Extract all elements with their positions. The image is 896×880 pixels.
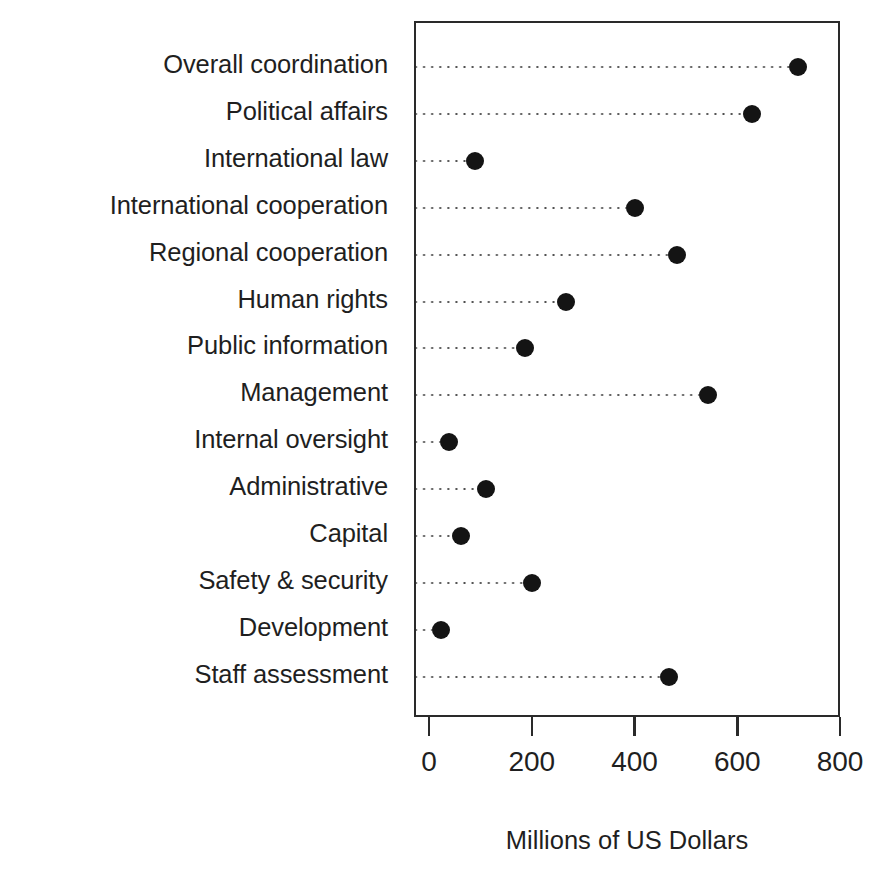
leader-line [416, 113, 743, 115]
x-axis-tick-label: 0 [421, 748, 437, 776]
leader-line [416, 394, 699, 396]
data-point-marker [668, 246, 686, 264]
data-point-marker [452, 527, 470, 545]
data-point-marker [660, 668, 678, 686]
dot-plot-figure: Overall coordinationPolitical affairsInt… [0, 0, 896, 880]
category-label: Human rights [0, 287, 388, 313]
data-point-marker [523, 574, 541, 592]
x-axis-tick [633, 717, 636, 736]
leader-line [416, 254, 668, 256]
category-label: Management [0, 380, 388, 406]
leader-line [416, 676, 660, 678]
plot-area [416, 23, 838, 715]
data-point-marker [789, 58, 807, 76]
x-axis-tick [839, 717, 842, 736]
leader-line [416, 66, 789, 68]
x-axis-tick-labels: 0200400600800 [414, 748, 840, 788]
category-label: International cooperation [0, 193, 388, 219]
leader-line [416, 347, 516, 349]
x-axis-tick-label: 800 [817, 748, 864, 776]
category-axis-labels: Overall coordinationPolitical affairsInt… [0, 0, 388, 717]
category-label: International law [0, 146, 388, 172]
plot-panel [414, 21, 840, 717]
leader-line [416, 441, 440, 443]
x-axis-tick-label: 600 [714, 748, 761, 776]
category-label: Capital [0, 521, 388, 547]
data-point-marker [557, 293, 575, 311]
x-axis-tick [531, 717, 534, 736]
x-axis-tick-label: 200 [508, 748, 555, 776]
x-axis-title: Millions of US Dollars [414, 828, 840, 854]
category-label: Internal oversight [0, 427, 388, 453]
data-point-marker [432, 621, 450, 639]
category-label: Regional cooperation [0, 240, 388, 266]
data-point-marker [440, 433, 458, 451]
data-point-marker [699, 386, 717, 404]
leader-line [416, 535, 452, 537]
leader-line [416, 488, 477, 490]
x-axis-tick-label: 400 [611, 748, 658, 776]
category-label: Public information [0, 333, 388, 359]
leader-line [416, 582, 523, 584]
leader-line [416, 629, 432, 631]
x-axis-ticks [414, 717, 840, 747]
data-point-marker [626, 199, 644, 217]
leader-line [416, 207, 626, 209]
x-axis-tick [736, 717, 739, 736]
category-label: Political affairs [0, 99, 388, 125]
leader-line [416, 160, 466, 162]
data-point-marker [743, 105, 761, 123]
data-point-marker [477, 480, 495, 498]
category-label: Development [0, 615, 388, 641]
category-label: Staff assessment [0, 662, 388, 688]
data-point-marker [516, 339, 534, 357]
category-label: Administrative [0, 474, 388, 500]
data-point-marker [466, 152, 484, 170]
category-label: Safety & security [0, 568, 388, 594]
x-axis-tick [428, 717, 431, 736]
category-label: Overall coordination [0, 52, 388, 78]
leader-line [416, 301, 557, 303]
